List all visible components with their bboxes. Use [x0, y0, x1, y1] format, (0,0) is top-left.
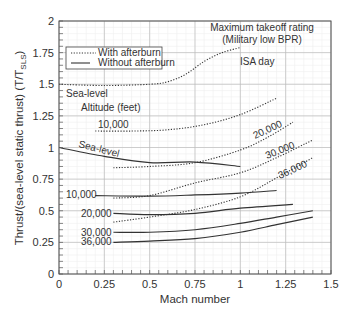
- y-tick-label: 0.25: [33, 236, 54, 248]
- label-ab-30000: 30,000: [264, 139, 297, 161]
- legend: With afterburn Without afterburn: [66, 47, 175, 69]
- y-axis-label: Thrust/(sea-level static thrust) (T/TSLS…: [13, 50, 28, 245]
- y-tick-label: 1.25: [33, 110, 54, 122]
- x-tick-label: 1: [237, 278, 243, 290]
- label-ab-10000: 10,000: [98, 119, 129, 130]
- label-dry-36000: 36,000: [81, 236, 112, 247]
- legend-without-afterburn: Without afterburn: [98, 57, 175, 68]
- y-tick-label: 2: [48, 15, 54, 27]
- y-tick-label: 1.5: [39, 78, 54, 90]
- label-dry-20000: 20,000: [81, 208, 112, 219]
- y-tick-label: 0: [48, 268, 54, 280]
- label-ab-sealevel: Sea-level: [66, 88, 108, 99]
- x-tick-label: 0.75: [184, 278, 205, 290]
- thrust-mach-chart: 00.250.50.7511.251.500.250.50.7511.251.5…: [0, 0, 350, 317]
- svg-text:Thrust/(sea-level static thrus: Thrust/(sea-level static thrust) (T/TSLS…: [13, 50, 28, 245]
- x-tick-label: 0.25: [94, 278, 115, 290]
- x-tick-label: 0: [56, 278, 62, 290]
- chart-title-line2: (Military low BPR): [222, 34, 301, 45]
- y-tick-label: 1.75: [33, 47, 54, 59]
- y-tick-label: 1: [48, 142, 54, 154]
- label-altitude-header: Altitude (feet): [81, 102, 140, 113]
- label-dry-10000: 10,000: [66, 189, 97, 200]
- x-axis-label: Mach number: [160, 293, 230, 305]
- y-axis-label-sub: SLS: [19, 54, 28, 69]
- y-axis-label-close: ): [13, 50, 25, 54]
- y-axis-label-main: Thrust/(sea-level static thrust) (T/T: [13, 70, 25, 246]
- chart-subtitle: ISA day: [240, 56, 274, 67]
- x-tick-label: 1.5: [323, 278, 338, 290]
- x-tick-label: 1.25: [275, 278, 296, 290]
- x-tick-label: 0.5: [142, 278, 157, 290]
- y-tick-label: 0.75: [33, 173, 54, 185]
- y-tick-label: 0.5: [39, 205, 54, 217]
- chart-title-line1: Maximum takeoff rating: [210, 22, 314, 33]
